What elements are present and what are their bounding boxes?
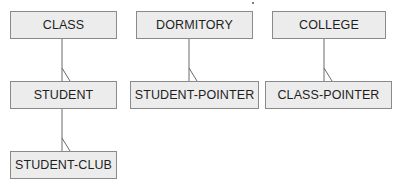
node-class: CLASS (10, 11, 117, 39)
crowsfoot-icon (324, 68, 332, 81)
node-student: STUDENT (10, 81, 117, 109)
node-college: COLLEGE (272, 11, 386, 39)
stray-mark (252, 2, 254, 4)
crowsfoot-icon (189, 68, 197, 81)
node-label: STUDENT (34, 88, 94, 102)
node-label: STUDENT-CLUB (15, 158, 112, 172)
node-label: CLASS-POINTER (277, 88, 379, 102)
node-label: STUDENT-POINTER (135, 88, 255, 102)
crowsfoot-icon (62, 68, 70, 81)
node-dormitory: DORMITORY (136, 11, 253, 39)
node-student-club: STUDENT-CLUB (10, 151, 117, 179)
node-label: COLLEGE (299, 18, 359, 32)
node-label: DORMITORY (156, 18, 233, 32)
crowsfoot-icon (62, 138, 70, 151)
node-student-pointer: STUDENT-POINTER (130, 81, 259, 109)
node-label: CLASS (43, 18, 85, 32)
node-class-pointer: CLASS-POINTER (265, 81, 392, 109)
